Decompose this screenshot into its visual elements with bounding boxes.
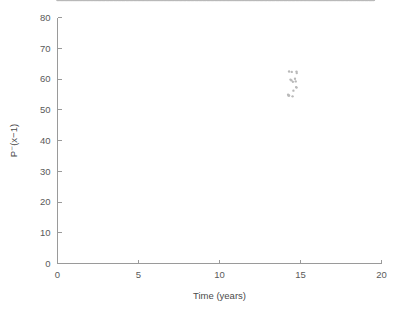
x-tick-label: 10 (214, 269, 225, 280)
y-tick-label: 80 (40, 12, 51, 23)
y-tick-label: 20 (40, 196, 51, 207)
outlier-data-point (288, 70, 290, 72)
outlier-data-point (287, 94, 289, 96)
tick-labels-group: 0102030405060708005101520 (40, 12, 387, 280)
axes-group (58, 18, 382, 264)
outlier-data-point (295, 70, 297, 72)
outlier-data-point (294, 78, 296, 80)
outlier-data-point (291, 95, 293, 97)
y-tick-label: 70 (40, 43, 51, 54)
y-axis-title: P⁻(x−1) (8, 124, 19, 157)
y-tick-label: 10 (40, 227, 51, 238)
x-tick-label: 0 (55, 269, 60, 280)
axis-titles-group: Time (years)P⁻(x−1) (8, 124, 246, 301)
x-tick-label: 20 (376, 269, 387, 280)
y-tick-label: 0 (45, 258, 50, 269)
y-tick-label: 30 (40, 166, 51, 177)
y-tick-label: 40 (40, 135, 51, 146)
x-axis-title: Time (years) (193, 290, 246, 301)
x-tick-label: 15 (295, 269, 306, 280)
outlier-data-point (295, 86, 297, 88)
outlier-data-point (289, 78, 291, 80)
y-tick-label: 60 (40, 73, 51, 84)
y-tick-label: 50 (40, 104, 51, 115)
scatter-plot-svg: 0102030405060708005101520 Time (years)P⁻… (0, 0, 415, 313)
outlier-data-point (291, 71, 293, 73)
outlier-data-point (292, 90, 294, 92)
data-points-group (56, 0, 375, 98)
x-tick-label: 5 (136, 269, 141, 280)
outlier-data-point (295, 80, 297, 82)
tick-marks-group (58, 18, 382, 264)
chart-figure: 0102030405060708005101520 Time (years)P⁻… (0, 0, 415, 313)
